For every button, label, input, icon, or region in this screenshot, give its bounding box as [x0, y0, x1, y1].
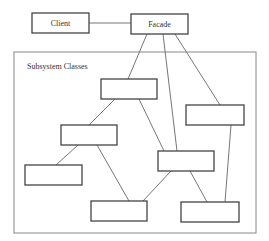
class-box-sub1	[101, 79, 157, 99]
class-box-rect	[158, 151, 214, 171]
class-box-rect	[186, 105, 244, 125]
class-box-rect	[91, 201, 147, 221]
edge-sub1-sub3	[89, 99, 115, 125]
edge-sub4-sub6	[143, 171, 171, 201]
edge-sub3-sub5	[56, 145, 78, 165]
edge-facade-sub1	[128, 34, 147, 79]
edge-facade-sub2	[175, 34, 220, 105]
facade-diagram: Subsystem Classes ClientFacade	[0, 0, 269, 241]
class-box-rect	[181, 202, 239, 222]
class-box-client: Client	[32, 13, 89, 33]
class-label-facade: Facade	[148, 20, 171, 29]
class-box-facade: Facade	[131, 14, 188, 34]
class-box-sub5	[25, 165, 82, 185]
class-box-sub7	[181, 202, 239, 222]
class-label-client: Client	[51, 19, 71, 28]
class-box-rect	[101, 79, 157, 99]
subsystem-classes-label: Subsystem Classes	[27, 62, 88, 71]
edge-sub3-sub6	[97, 145, 129, 201]
edge-sub1-sub4	[139, 99, 164, 151]
class-box-rect	[61, 125, 117, 145]
class-box-sub2	[186, 105, 244, 125]
class-box-rect	[25, 165, 82, 185]
class-box-sub6	[91, 201, 147, 221]
edge-sub4-sub7	[190, 171, 207, 202]
class-box-sub4	[158, 151, 214, 171]
edge-sub2-sub7	[225, 125, 231, 202]
class-box-sub3	[61, 125, 117, 145]
